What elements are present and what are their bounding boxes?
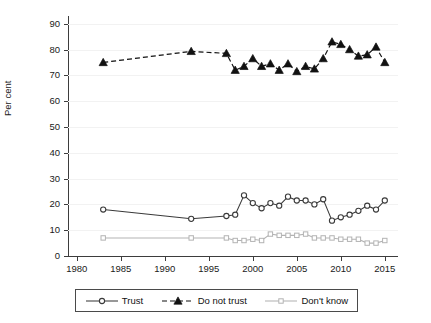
data-point bbox=[294, 198, 299, 203]
data-point bbox=[242, 238, 246, 242]
data-point bbox=[330, 236, 334, 240]
data-point bbox=[356, 237, 360, 241]
legend-label: Trust bbox=[122, 296, 143, 306]
data-point bbox=[259, 206, 264, 211]
data-point bbox=[339, 237, 343, 241]
line-open-circle-key bbox=[85, 295, 119, 307]
data-point bbox=[302, 62, 310, 69]
data-point bbox=[285, 194, 290, 199]
data-point bbox=[374, 241, 378, 245]
legend-item-don-t-know[interactable]: Don't know bbox=[264, 295, 348, 307]
data-point bbox=[187, 47, 195, 54]
data-point bbox=[372, 43, 380, 50]
data-point bbox=[259, 238, 263, 242]
data-point bbox=[321, 197, 326, 202]
series-do-not-trust bbox=[99, 38, 389, 75]
data-point bbox=[224, 213, 229, 218]
data-point bbox=[303, 232, 307, 236]
data-point bbox=[224, 236, 228, 240]
data-point bbox=[295, 233, 299, 237]
series-don-t-know bbox=[101, 232, 387, 245]
data-point bbox=[346, 45, 354, 52]
dashed-triangle-key bbox=[161, 295, 195, 307]
data-point bbox=[365, 203, 370, 208]
data-point bbox=[277, 233, 281, 237]
data-point bbox=[338, 215, 343, 220]
data-point bbox=[268, 200, 273, 205]
data-point bbox=[241, 193, 246, 198]
data-point bbox=[233, 238, 237, 242]
line-open-square-key bbox=[264, 295, 298, 307]
data-point bbox=[347, 237, 351, 241]
data-point bbox=[312, 236, 316, 240]
data-point bbox=[277, 203, 282, 208]
data-point bbox=[250, 200, 255, 205]
data-point bbox=[303, 198, 308, 203]
data-point bbox=[249, 54, 257, 61]
legend-label: Do not trust bbox=[198, 296, 247, 306]
data-point bbox=[284, 60, 292, 67]
chart-legend: TrustDo not trustDon't know bbox=[75, 289, 358, 312]
data-point bbox=[319, 54, 327, 61]
data-point bbox=[189, 236, 193, 240]
legend-label: Don't know bbox=[301, 296, 348, 306]
data-point bbox=[268, 232, 272, 236]
legend-item-trust[interactable]: Trust bbox=[85, 295, 143, 307]
chart-container: Per cent 0102030405060708090 19801985199… bbox=[0, 0, 431, 323]
data-point bbox=[286, 233, 290, 237]
series-trust bbox=[101, 193, 388, 223]
legend-item-do-not-trust[interactable]: Do not trust bbox=[161, 295, 247, 307]
data-point bbox=[312, 202, 317, 207]
data-point bbox=[382, 198, 387, 203]
data-point bbox=[189, 216, 194, 221]
data-point bbox=[383, 238, 387, 242]
data-point bbox=[101, 236, 105, 240]
data-point bbox=[373, 207, 378, 212]
data-point bbox=[275, 66, 283, 73]
data-point bbox=[354, 52, 362, 59]
data-point bbox=[231, 66, 239, 73]
data-point bbox=[293, 67, 301, 74]
series-layer bbox=[0, 0, 431, 323]
data-point bbox=[101, 207, 106, 212]
data-point bbox=[381, 58, 389, 65]
data-point bbox=[251, 237, 255, 241]
data-point bbox=[328, 38, 336, 45]
data-point bbox=[321, 236, 325, 240]
data-point bbox=[365, 241, 369, 245]
data-point bbox=[329, 218, 334, 223]
data-point bbox=[347, 212, 352, 217]
data-point bbox=[356, 208, 361, 213]
data-point bbox=[233, 212, 238, 217]
data-point bbox=[266, 60, 274, 67]
